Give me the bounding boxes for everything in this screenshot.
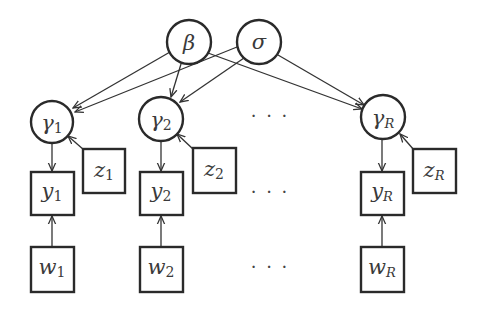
edges-z-gamma — [68, 134, 414, 150]
column-1: γ1 z1 y1 w1 — [31, 101, 125, 292]
edge-sigma-gammaR — [278, 55, 364, 105]
graphical-model-diagram: β σ γ1 z1 y1 w1 γ2 z2 — [0, 0, 480, 310]
edge-beta-gamma2 — [171, 64, 181, 97]
ellipsis-gamma-row: · · · — [251, 105, 290, 126]
column-R: γR zR yR wR — [361, 95, 456, 292]
edges-hyperparameters — [73, 47, 364, 112]
node-sigma: σ — [237, 20, 281, 64]
edge-z2-gamma2 — [177, 134, 194, 150]
edge-z1-gamma1 — [68, 136, 84, 150]
ellipsis-w-row: · · · — [251, 256, 290, 277]
edge-zR-gammaR — [400, 134, 414, 150]
ellipsis-y-row: · · · — [251, 181, 290, 202]
ellipsis-column: · · · · · · · · · — [251, 105, 290, 277]
beta-label: β — [182, 31, 195, 55]
sigma-label: σ — [252, 30, 267, 54]
node-beta: β — [167, 20, 211, 64]
diagram-svg: β σ γ1 z1 y1 w1 γ2 z2 — [0, 0, 480, 310]
column-2: γ2 z2 y2 w2 — [139, 97, 236, 292]
edges-w-y — [52, 216, 382, 247]
edge-beta-gammaR — [208, 53, 362, 109]
